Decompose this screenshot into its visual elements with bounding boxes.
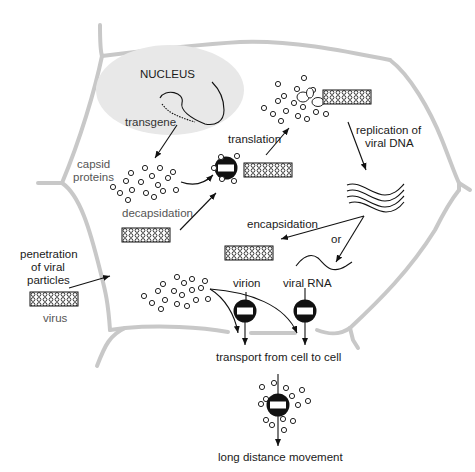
- virion-label: virion: [233, 277, 260, 289]
- encapsidated-virion: [225, 246, 273, 260]
- replication-label-2: viral DNA: [365, 137, 414, 149]
- capsid-protein-dots: [110, 165, 178, 202]
- capsid-label-2: proteins: [73, 171, 114, 183]
- replicated-dna-strands: [347, 184, 404, 212]
- encapsidation-label: encapsidation: [247, 218, 318, 230]
- decapsidation-label: decapsidation: [122, 207, 193, 219]
- transport-label: transport from cell to cell: [216, 351, 341, 363]
- replication-label-1: replication of: [356, 124, 422, 136]
- blocked-translation-complex: [211, 153, 292, 183]
- long-distance-blocked-complex: [258, 380, 310, 432]
- viral-infection-cycle-diagram: NUCLEUS transgene capsid proteins transl…: [0, 0, 475, 472]
- capsid-label-1: capsid: [77, 158, 110, 170]
- virion-dots: [141, 274, 210, 311]
- blocked-virion: [234, 300, 257, 323]
- transgene-label: transgene: [125, 116, 176, 128]
- long-distance-label: long distance movement: [218, 451, 343, 463]
- penetration-label-1: penetration: [20, 248, 78, 260]
- penetration-label-2: of viral: [31, 261, 65, 273]
- nucleus-label: NUCLEUS: [140, 68, 195, 80]
- penetration-label-3: particles: [27, 274, 70, 286]
- nucleus: NUCLEUS transgene: [96, 45, 244, 135]
- viral-rna-strand: [296, 256, 352, 270]
- decapsidated-virus: [122, 228, 170, 242]
- virus-particle: [30, 292, 78, 306]
- viral-rna-label: viral RNA: [283, 277, 332, 289]
- translation-label: translation: [228, 133, 281, 145]
- or-label: or: [331, 233, 341, 245]
- virus-label: virus: [43, 312, 68, 324]
- blocked-viral-rna: [294, 300, 317, 323]
- translation-products: [261, 75, 371, 123]
